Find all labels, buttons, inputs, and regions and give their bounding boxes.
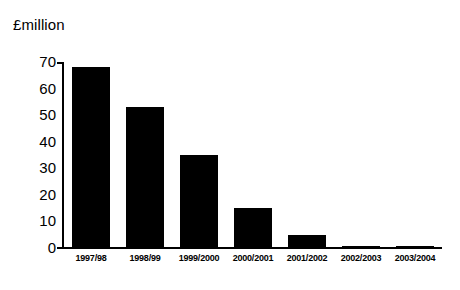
y-axis-unit-label: £million	[13, 17, 65, 32]
x-tick-label: 2001/2002	[280, 252, 334, 264]
y-tick-label: 20	[14, 187, 56, 202]
x-axis-tick-labels: 1997/981998/991999/20002000/20012001/200…	[62, 252, 447, 268]
bar	[126, 107, 164, 248]
y-tick-label: 30	[14, 160, 56, 175]
bar-chart: £million 706050403020100 1997/981998/991…	[0, 0, 460, 290]
x-tick-label: 1998/99	[118, 252, 172, 264]
y-tick-label: 70	[14, 54, 56, 69]
bar	[72, 67, 110, 248]
plot-area: 706050403020100	[62, 62, 442, 248]
bar	[234, 208, 272, 248]
x-tick-label: 1997/98	[64, 252, 118, 264]
y-tick-label: 10	[14, 213, 56, 228]
bar	[288, 235, 326, 248]
y-axis-top-tick	[57, 62, 64, 64]
bar	[180, 155, 218, 248]
y-tick-label: 40	[14, 134, 56, 149]
bars-layer	[64, 62, 442, 248]
x-tick-label: 2003/2004	[388, 252, 442, 264]
x-tick-label: 1999/2000	[172, 252, 226, 264]
bar	[342, 246, 380, 249]
y-tick-label: 50	[14, 107, 56, 122]
y-tick-label: 60	[14, 81, 56, 96]
bar	[396, 246, 434, 249]
y-tick-label: 0	[14, 240, 56, 255]
x-tick-label: 2000/2001	[226, 252, 280, 264]
x-tick-label: 2002/2003	[334, 252, 388, 264]
